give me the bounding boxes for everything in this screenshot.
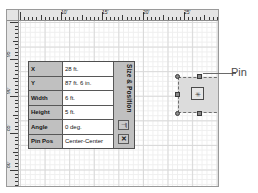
ruler-tick [10,59,18,60]
selected-shape[interactable]: ✳ [175,74,218,116]
resize-handle-bottom-left[interactable] [175,111,180,116]
table-row[interactable]: Width6 ft. [29,91,113,106]
ruler-tick [53,17,54,20]
ruler-tick [114,17,115,20]
property-value[interactable]: Center-Center [63,135,113,149]
ruler-tick [176,17,177,20]
ruler-tick [15,66,18,67]
ruler-tick [127,17,128,20]
pin-marker[interactable]: ✳ [191,87,204,100]
ruler-tick [77,17,78,20]
ruler-tick [82,15,83,20]
ruler-tick [13,152,18,153]
ruler-tick [98,17,99,20]
ruler-tick [15,37,18,38]
size-and-position-panel[interactable]: X28 ft.Y87 ft. 6 in.Width6 ft.Height5 ft… [28,61,135,149]
ruler-tick [172,17,173,20]
ruler-tick [135,17,136,20]
ruler-tick [180,17,181,20]
ruler-tick [15,89,18,90]
ruler-corner-box[interactable] [7,10,19,21]
ruler-tick [15,166,18,167]
table-row[interactable]: Angle0 deg. [29,120,113,135]
dock-button[interactable]: ⊣| [118,120,129,130]
ruler-tick [147,17,148,20]
property-value[interactable]: 0 deg. [63,120,113,134]
property-value[interactable]: 87 ft. 6 in. [63,77,113,91]
close-button[interactable]: ✕ [118,134,129,144]
ruler-tick [118,17,119,20]
property-value[interactable]: 5 ft. [63,106,113,120]
property-label: Width [29,91,63,105]
table-row[interactable]: Pin PosCenter-Center [29,135,113,149]
property-label: Angle [29,120,63,134]
ruler-tick [15,181,18,182]
pin-callout-label: Pin [231,66,247,78]
horizontal-ruler[interactable]: 10'15'20'25'30' [19,10,218,21]
ruler-tick [155,17,156,20]
ruler-tick [15,33,18,34]
table-row[interactable]: Y87 ft. 6 in. [29,77,113,92]
ruler-tick [15,55,18,56]
ruler-tick [57,17,58,20]
ruler-tick [213,17,214,20]
ruler-label: 25' [184,10,191,15]
property-label: X [29,62,63,76]
ruler-tick [15,137,18,138]
property-value[interactable]: 6 ft. [63,91,113,105]
ruler-label: 15' [102,10,109,15]
ruler-tick [49,17,50,20]
ruler-tick [15,111,18,112]
ruler-tick [10,133,18,134]
resize-handle-top-left[interactable] [175,74,180,79]
ruler-tick [15,85,18,86]
ruler-tick [15,122,18,123]
ruler-tick [15,140,18,141]
ruler-tick [10,96,18,97]
ruler-tick [15,103,18,104]
ruler-tick [15,144,18,145]
resize-handle-top-center[interactable] [197,74,202,79]
table-row[interactable]: Height5 ft. [29,106,113,121]
resize-handle-bottom-center[interactable] [197,111,202,116]
resize-handle-middle-left[interactable] [175,92,180,97]
ruler-tick [122,15,123,20]
ruler-tick [168,17,169,20]
vertical-ruler[interactable]: 95'90'85'80'75' [7,21,19,186]
ruler-tick [13,115,18,116]
ruler-tick [15,174,18,175]
ruler-tick [217,17,218,20]
app-root: 10'15'20'25'30' 95'90'85'80'75' ✳ [0,0,258,193]
ruler-tick [15,26,18,27]
panel-titlebar[interactable]: Size & Position ⊣| ✕ [113,62,134,148]
ruler-tick [163,15,164,20]
property-label: Y [29,77,63,91]
ruler-tick [196,17,197,20]
property-label: Height [29,106,63,120]
ruler-tick [90,17,91,20]
ruler-tick [24,17,25,20]
ruler-tick [15,74,18,75]
ruler-tick [28,17,29,20]
ruler-tick [15,63,18,64]
ruler-tick [15,29,18,30]
ruler-tick [20,12,21,20]
drawing-window: 10'15'20'25'30' 95'90'85'80'75' ✳ [6,9,219,187]
ruler-label: 90' [7,87,11,94]
ruler-tick [15,177,18,178]
ruler-tick [15,52,18,53]
ruler-tick [86,17,87,20]
ruler-tick [65,17,66,20]
ruler-tick [15,100,18,101]
ruler-tick [15,48,18,49]
size-position-table: X28 ft.Y87 ft. 6 in.Width6 ft.Height5 ft… [29,62,113,148]
ruler-tick [159,17,160,20]
ruler-tick [13,41,18,42]
ruler-tick [209,17,210,20]
ruler-label: 80' [7,161,11,168]
ruler-tick [15,148,18,149]
ruler-label: 95' [7,50,11,57]
ruler-tick [204,15,205,20]
table-row[interactable]: X28 ft. [29,62,113,77]
property-value[interactable]: 28 ft. [63,62,113,76]
